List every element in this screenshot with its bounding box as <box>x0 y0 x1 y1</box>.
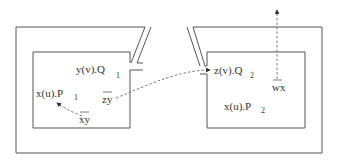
output-zy: zy <box>102 92 113 105</box>
svg-text:1: 1 <box>74 93 78 102</box>
svg-text:2: 2 <box>250 71 254 80</box>
svg-text:wx: wx <box>272 81 286 93</box>
svg-text:y(v).Q: y(v).Q <box>76 63 105 76</box>
process-x-u-P1: x(u).P 1 <box>36 87 78 102</box>
left-channel-wall <box>131 27 145 63</box>
svg-text:1: 1 <box>116 71 120 80</box>
output-xy: xy <box>79 112 91 125</box>
left-channel-inner-wall <box>137 27 151 63</box>
svg-text:x(u).P: x(u).P <box>224 100 251 113</box>
process-y-v-Q1: y(v).Q 1 <box>76 63 120 80</box>
process-location-diagram: y(v).Q 1 x(u).P 1 zy xy z(v).Q 2 x(u).P … <box>0 0 338 164</box>
svg-text:x(u).P: x(u).P <box>36 87 63 100</box>
output-wx: wx <box>272 80 286 93</box>
svg-text:xy: xy <box>79 113 91 125</box>
process-z-v-Q2: z(v).Q 2 <box>214 64 254 80</box>
svg-text:z(v).Q: z(v).Q <box>214 64 242 77</box>
right-channel-inner-wall <box>187 27 200 66</box>
svg-text:zy: zy <box>102 93 113 105</box>
process-x-u-P2: x(u).P 2 <box>224 100 265 115</box>
svg-text:2: 2 <box>261 106 265 115</box>
